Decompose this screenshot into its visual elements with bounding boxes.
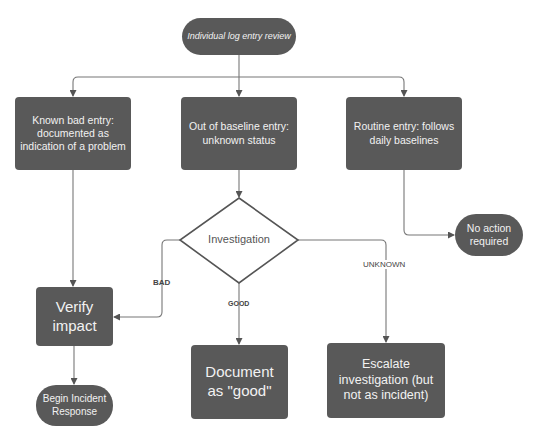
connector-to-routine bbox=[239, 77, 404, 96]
known-bad-entry-node: Known bad entry: documented as indicatio… bbox=[15, 97, 131, 170]
begin-incident-response-node: Begin Incident Response bbox=[36, 385, 113, 426]
no-action-label: No action required bbox=[463, 222, 515, 248]
out-of-baseline-node: Out of baseline entry: unknown status bbox=[181, 97, 297, 170]
edge-label-unknown: UNKNOWN bbox=[363, 260, 405, 269]
verify-impact-node: Verify impact bbox=[36, 287, 113, 346]
start-node: Individual log entry review bbox=[182, 18, 296, 55]
connector-unknown bbox=[298, 240, 386, 342]
document-good-node: Document as "good" bbox=[191, 345, 288, 419]
escalate-investigation-label: Escalate investigation (but not as incid… bbox=[331, 357, 441, 404]
routine-entry-label: Routine entry: follows daily baselines bbox=[351, 120, 457, 146]
edge-label-bad: BAD bbox=[153, 278, 170, 287]
out-of-baseline-label: Out of baseline entry: unknown status bbox=[187, 120, 291, 146]
escalate-investigation-node: Escalate investigation (but not as incid… bbox=[327, 343, 445, 418]
edge-label-good: GOOD bbox=[228, 300, 249, 307]
document-good-label: Document as "good" bbox=[197, 363, 282, 401]
connector-to-known-bad bbox=[73, 77, 239, 96]
verify-impact-label: Verify impact bbox=[42, 298, 107, 336]
no-action-node: No action required bbox=[455, 214, 523, 256]
connector-routine-no-action bbox=[404, 170, 454, 235]
routine-entry-node: Routine entry: follows daily baselines bbox=[346, 97, 462, 170]
known-bad-entry-label: Known bad entry: documented as indicatio… bbox=[19, 114, 127, 153]
start-node-label: Individual log entry review bbox=[187, 31, 291, 42]
begin-incident-response-label: Begin Incident Response bbox=[40, 393, 109, 418]
investigation-label: Investigation bbox=[195, 233, 283, 245]
